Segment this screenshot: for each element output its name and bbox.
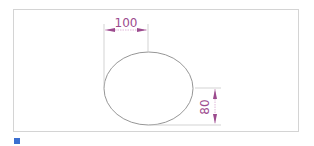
- arrowhead-up-icon: [213, 89, 217, 99]
- ellipse-shape: [104, 52, 193, 125]
- arrowhead-right-icon: [137, 28, 147, 32]
- arrowhead-left-icon: [105, 28, 115, 32]
- dimension-label-vertical: 80: [198, 99, 212, 114]
- drawing-canvas: 100 80: [0, 0, 314, 146]
- dimension-label-horizontal: 100: [115, 16, 138, 30]
- arrowhead-down-icon: [213, 114, 217, 124]
- selection-marker-icon[interactable]: [14, 138, 20, 144]
